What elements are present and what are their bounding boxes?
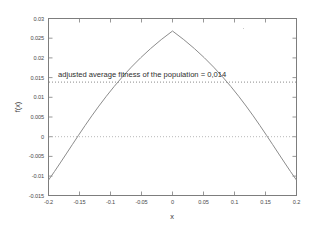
fitness-annotation-label: adjusted average fitness of the populati… [58, 70, 226, 79]
xtick-label: 0.05 [198, 199, 209, 205]
x-axis-title: x [170, 212, 174, 221]
xtick-label: 0.15 [260, 199, 271, 205]
plot-frame [49, 19, 297, 196]
ytick-label: 0.03 [16, 16, 44, 22]
scan-artifact-speck [243, 28, 244, 29]
ytick-label: 0.025 [16, 35, 44, 41]
xtick-label: 0 [171, 199, 174, 205]
xtick-label: -0.2 [44, 199, 53, 205]
chart-figure: 0.03 0.025 0.02 0.015 0.01 0.005 0 -0.00… [0, 0, 322, 235]
ytick-label: -0.005 [16, 153, 44, 159]
xtick-label: 0.2 [293, 199, 300, 205]
xtick-label: 0.1 [231, 199, 238, 205]
ytick-label: -0.015 [16, 193, 44, 199]
xtick-label: -0.15 [73, 199, 85, 205]
fitness-curve [49, 31, 296, 180]
ytick-label: 0.02 [16, 55, 44, 61]
y-axis-ticks [49, 19, 297, 196]
y-axis-title: f(x) [13, 96, 22, 118]
ytick-label: -0.01 [16, 173, 44, 179]
x-axis-ticks [49, 19, 297, 196]
xtick-label: -0.05 [135, 199, 147, 205]
xtick-label: -0.1 [106, 199, 115, 205]
ytick-label: 0.015 [16, 75, 44, 81]
ytick-label: 0 [16, 134, 44, 140]
